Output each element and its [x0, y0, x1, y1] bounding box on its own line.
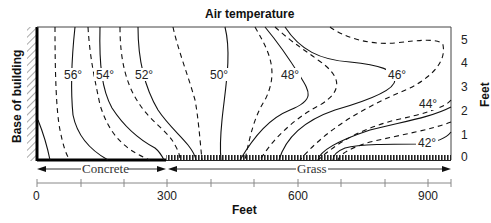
arrow-right-icon	[157, 166, 166, 172]
isotherm-labels: 56° 54° 52° 50° 48° 46° 44° 42°	[62, 68, 439, 150]
x-tick-300: 300	[157, 189, 177, 203]
isotherm-46: 46°	[388, 68, 406, 82]
y-tick-3: 3	[461, 80, 468, 94]
x-tick-600: 600	[288, 189, 308, 203]
arrow-right-icon	[442, 166, 451, 172]
isotherm-54: 54°	[96, 68, 114, 82]
y-tick-2: 2	[461, 104, 468, 118]
isotherm-lines	[38, 27, 451, 160]
arrow-left-icon	[37, 166, 46, 172]
y-tick-4: 4	[461, 56, 468, 70]
x-tick-900: 900	[418, 189, 438, 203]
right-axis: 0 1 2 3 4 5 Feet	[461, 33, 491, 164]
surface-arrows: Concrete Grass	[37, 161, 451, 176]
concrete-label: Concrete	[82, 161, 129, 176]
isotherm-48: 48°	[281, 68, 299, 82]
right-axis-label: Feet	[478, 82, 491, 107]
grass-label: Grass	[297, 161, 327, 176]
x-tick-0: 0	[33, 189, 40, 203]
bottom-axis: 0 300 600 900 Feet	[33, 179, 451, 217]
isotherm-52: 52°	[135, 68, 153, 82]
y-tick-1: 1	[461, 128, 468, 142]
isotherm-44: 44°	[419, 97, 437, 111]
diagram-title: Air temperature	[205, 7, 295, 21]
temperature-profile-diagram: 56° 54° 52° 50° 48° 46° 44° 42° Air temp…	[0, 0, 491, 223]
y-tick-0: 0	[461, 150, 468, 164]
isotherm-56: 56°	[64, 68, 82, 82]
isotherm-42: 42°	[418, 136, 436, 150]
base-of-building-label: Base of building	[10, 50, 24, 143]
y-tick-5: 5	[461, 33, 468, 47]
bottom-axis-label: Feet	[232, 203, 257, 217]
isotherm-50: 50°	[210, 68, 228, 82]
